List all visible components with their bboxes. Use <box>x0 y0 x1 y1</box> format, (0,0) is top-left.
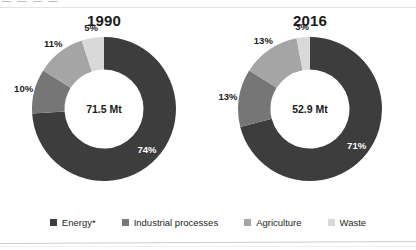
bottom-divider-secondary <box>0 246 416 247</box>
legend-item[interactable]: Industrial processes <box>122 217 218 228</box>
donut-svg-2016 <box>235 34 385 184</box>
chart-page: — — — — 1990 71.5 Mt 74%10%11%5% 2016 52… <box>0 0 416 250</box>
legend-item[interactable]: Agriculture <box>244 217 301 228</box>
donut-panel-1990: 1990 71.5 Mt 74%10%11%5% <box>4 8 204 210</box>
legend-swatch-industrial-processes <box>122 219 129 226</box>
donut-slices-2016 <box>238 37 382 181</box>
legend-swatch-agriculture <box>244 219 251 226</box>
legend-swatch-energy <box>50 219 57 226</box>
cropped-header-strip: — — — — <box>0 0 416 7</box>
donut-panel-2016: 2016 52.9 Mt 71%13%13%3% <box>210 8 410 210</box>
legend-swatch-waste <box>328 219 335 226</box>
chart-legend: Energy*Industrial processesAgricultureWa… <box>0 210 416 234</box>
donut-svg-1990 <box>29 34 179 184</box>
legend-item-label: Energy* <box>62 217 96 228</box>
legend-item-label: Agriculture <box>256 217 301 228</box>
charts-container: 1990 71.5 Mt 74%10%11%5% 2016 52.9 Mt 71… <box>0 8 416 210</box>
panel-title-2016: 2016 <box>210 12 410 29</box>
cropped-header-text: — — — — <box>2 0 416 6</box>
bottom-divider <box>0 241 416 244</box>
donut-slices-1990 <box>32 37 176 181</box>
panel-title-1990: 1990 <box>4 12 204 29</box>
donut-chart-2016: 52.9 Mt 71%13%13%3% <box>235 34 385 184</box>
legend-item[interactable]: Waste <box>328 217 367 228</box>
legend-item-label: Industrial processes <box>134 217 218 228</box>
donut-chart-1990: 71.5 Mt 74%10%11%5% <box>29 34 179 184</box>
legend-item-label: Waste <box>340 217 367 228</box>
legend-item[interactable]: Energy* <box>50 217 96 228</box>
